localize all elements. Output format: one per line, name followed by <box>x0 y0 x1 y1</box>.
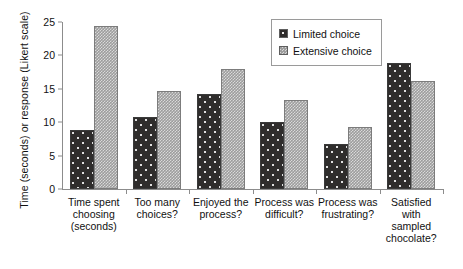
legend-item-extensive-choice: Extensive choice <box>279 42 372 59</box>
y-tick-label: 5 <box>0 150 62 162</box>
y-tick-mark <box>58 155 62 156</box>
x-axis-category-label: Satisfiedwithsampledchocolate? <box>380 196 444 244</box>
category-separator-tick <box>126 189 127 194</box>
x-axis-category-label-line: Enjoyed the <box>189 196 253 208</box>
x-axis-category-label-line: process? <box>189 208 253 220</box>
bar-limited-1 <box>133 117 157 189</box>
y-tick-label: 10 <box>0 116 62 128</box>
x-axis-category-label: Too manychoices? <box>126 196 190 220</box>
category-separator-tick <box>189 189 190 194</box>
x-axis-category-label-line: difficult? <box>253 208 317 220</box>
plot-area <box>62 22 443 189</box>
legend-swatch-icon-extensive <box>279 46 288 55</box>
bar-limited-2 <box>197 94 221 189</box>
category-separator-tick <box>380 189 381 194</box>
bar-limited-3 <box>260 122 284 189</box>
y-tick-label: 25 <box>0 16 62 28</box>
x-axis-category-label-line: sampled <box>380 220 444 232</box>
legend-label-extensive: Extensive choice <box>293 45 372 57</box>
legend-swatch-icon-limited <box>279 29 288 38</box>
y-tick-label: 15 <box>0 83 62 95</box>
x-axis-category-label: Process wasfrustrating? <box>316 196 380 220</box>
legend-label-limited: Limited choice <box>293 28 360 40</box>
x-axis-category-label: Enjoyed theprocess? <box>189 196 253 220</box>
x-axis-category-label-line: Process was <box>316 196 380 208</box>
x-axis-category-label-line: frustrating? <box>316 208 380 220</box>
y-tick-mark <box>58 189 62 190</box>
x-axis-category-label-line: (seconds) <box>62 220 126 232</box>
bar-extensive-0 <box>94 26 118 189</box>
x-axis-category-label-line: chocolate? <box>380 232 444 244</box>
x-axis-category-label-line: Satisfied <box>380 196 444 208</box>
bar-limited-4 <box>324 144 348 189</box>
bar-extensive-1 <box>157 91 181 189</box>
category-separator-tick-end <box>443 189 444 194</box>
y-tick-label: 20 <box>0 49 62 61</box>
bar-limited-0 <box>70 130 94 189</box>
y-tick-label: 0 <box>0 183 62 195</box>
x-axis-category-label: Time spentchoosing(seconds) <box>62 196 126 232</box>
y-axis-title: Time (seconds) or response (Likert scale… <box>18 10 30 210</box>
y-tick-mark <box>58 88 62 89</box>
x-axis-category-label-line: with <box>380 208 444 220</box>
bar-extensive-3 <box>284 100 308 190</box>
bar-limited-5 <box>387 63 411 189</box>
chart-legend: Limited choice Extensive choice <box>271 19 382 66</box>
bar-chart: Time (seconds) or response (Likert scale… <box>0 0 463 269</box>
x-axis-category-label-line: choices? <box>126 208 190 220</box>
x-axis-category-label-line: Too many <box>126 196 190 208</box>
legend-item-limited-choice: Limited choice <box>279 25 372 42</box>
x-axis-category-label: Process wasdifficult? <box>253 196 317 220</box>
category-separator-tick <box>316 189 317 194</box>
x-axis-category-label-line: Process was <box>253 196 317 208</box>
y-tick-mark <box>58 55 62 56</box>
bar-extensive-4 <box>348 127 372 189</box>
category-separator-tick <box>253 189 254 194</box>
y-tick-mark <box>58 122 62 123</box>
x-axis-category-label-line: Time spent <box>62 196 126 208</box>
x-axis-category-label-line: choosing <box>62 208 126 220</box>
y-tick-mark <box>58 22 62 23</box>
bar-extensive-2 <box>221 69 245 189</box>
bar-extensive-5 <box>411 81 435 189</box>
